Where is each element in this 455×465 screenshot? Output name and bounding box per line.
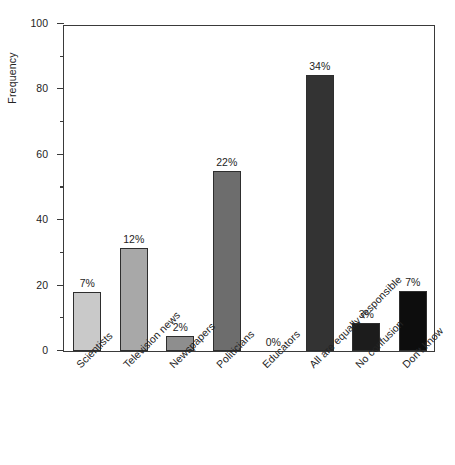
y-tick-major: 100 [57, 23, 64, 24]
bar[interactable] [213, 171, 241, 351]
bar-value-label: 34% [309, 60, 330, 72]
y-tick-label: 20 [36, 279, 48, 291]
y-tick-label: 80 [36, 82, 48, 94]
bar-value-label: 7% [405, 276, 420, 288]
y-tick-label: 40 [36, 213, 48, 225]
y-axis-title: Frequency [6, 8, 24, 148]
bar-value-label: 7% [80, 277, 95, 289]
bar-group: 7% [399, 26, 427, 351]
bar-chart: Frequency 020406080100 7%12%2%22%0%34%3%… [0, 0, 455, 465]
bar-group: 2% [166, 26, 194, 351]
bar[interactable] [120, 248, 148, 351]
bar[interactable] [306, 75, 334, 351]
y-tick-major: 40 [57, 219, 64, 220]
bar-value-label: 22% [216, 156, 237, 168]
y-tick-major: 60 [57, 154, 64, 155]
bar-value-label: 12% [123, 233, 144, 245]
y-tick-label: 0 [42, 344, 48, 356]
bar-group: 34% [306, 26, 334, 351]
bar-group: 7% [73, 26, 101, 351]
y-tick-major: 80 [57, 88, 64, 89]
bar-group: 0% [259, 26, 287, 351]
y-tick-label: 100 [30, 17, 48, 29]
bar-group: 22% [213, 26, 241, 351]
bar-group: 12% [120, 26, 148, 351]
y-tick-label: 60 [36, 148, 48, 160]
y-tick-major: 0 [57, 350, 64, 351]
y-tick-major: 20 [57, 285, 64, 286]
